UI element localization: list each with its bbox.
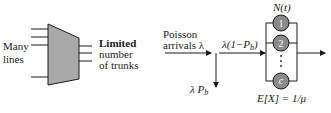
service-time-label: E[X] = 1/μ (256, 92, 306, 104)
many-lines-label-1: Many (3, 40, 29, 52)
server-label: 1 (279, 18, 284, 29)
loss-queue-diagram: Poisson arrivals λ λ Pb λ(1−Pb) N(t) 1 2 (163, 1, 325, 104)
dot (280, 65, 282, 67)
poisson-label-2: arrivals λ (163, 39, 205, 51)
server-1: 1 (273, 15, 289, 31)
server-2: 2 (273, 35, 289, 51)
ellipsis-dots (280, 55, 282, 67)
dot (280, 55, 282, 57)
server-label: c (279, 75, 284, 86)
count-label: N(t) (272, 1, 291, 14)
dot (280, 60, 282, 62)
output-lines (79, 46, 92, 61)
diagram-canvas: Many lines Limited number of trunks Pois… (0, 0, 331, 113)
blocked-label: λ Pb (189, 83, 208, 97)
concentrator-diagram: Many lines Limited number of trunks (3, 24, 138, 85)
admitted-label: λ(1−Pb) (221, 38, 258, 52)
input-lines (31, 29, 48, 77)
server-bank (266, 23, 297, 81)
many-lines-label-2: lines (3, 53, 24, 65)
server-c: c (273, 73, 289, 89)
of-trunks-label: of trunks (99, 59, 138, 71)
server-label: 2 (279, 38, 284, 49)
concentrator-trapezoid (48, 24, 79, 85)
